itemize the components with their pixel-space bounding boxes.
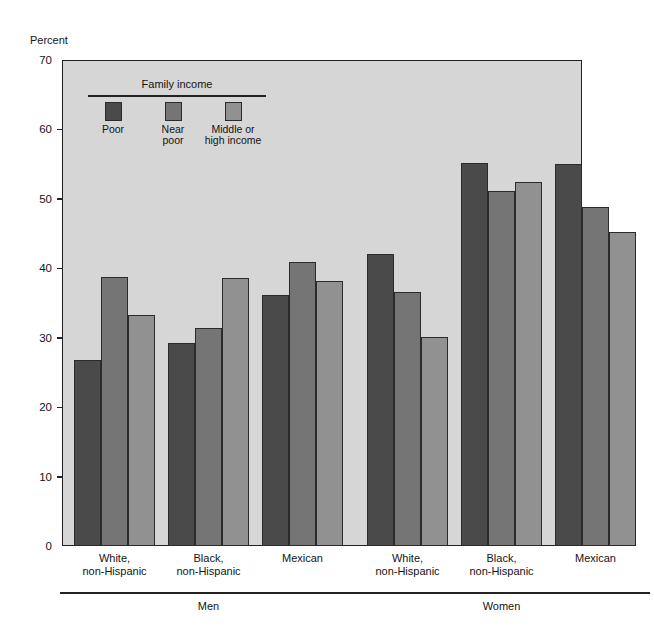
- legend-item[interactable]: Poor: [88, 102, 138, 135]
- bar: [101, 277, 128, 546]
- supergroup-rule: [60, 592, 357, 594]
- bar: [461, 163, 488, 546]
- legend-swatch: [225, 102, 242, 121]
- legend-item-label: Middle or high income: [200, 124, 266, 146]
- legend-item-label: Poor: [88, 124, 138, 135]
- bar: [316, 281, 343, 546]
- y-tick-label: 20: [39, 401, 52, 413]
- bar: [394, 292, 421, 546]
- bar: [421, 337, 448, 546]
- bar: [128, 315, 155, 546]
- legend-divider: [88, 95, 266, 97]
- y-tick-label: 70: [39, 54, 52, 66]
- supergroup-label: Men: [149, 600, 269, 612]
- bar: [488, 191, 515, 546]
- y-tick-label: 30: [39, 332, 52, 344]
- chart-legend: Family income PoorNear poorMiddle or hig…: [88, 78, 266, 140]
- supergroup-rule: [353, 592, 650, 594]
- bar: [222, 278, 249, 546]
- bar: [367, 254, 394, 546]
- legend-item[interactable]: Near poor: [150, 102, 196, 146]
- bar: [74, 360, 101, 546]
- bar: [262, 295, 289, 546]
- x-axis-group-label: Mexican: [243, 552, 363, 565]
- bar: [289, 262, 316, 546]
- bar: [195, 328, 222, 546]
- legend-swatch: [105, 102, 122, 121]
- legend-item-label: Near poor: [150, 124, 196, 146]
- legend-item[interactable]: Middle or high income: [200, 102, 266, 146]
- bar: [582, 207, 609, 546]
- legend-title: Family income: [88, 78, 266, 90]
- y-tick-label: 0: [46, 540, 52, 552]
- y-tick-label: 60: [39, 123, 52, 135]
- bar: [515, 182, 542, 547]
- x-axis-group-label: Mexican: [536, 552, 654, 565]
- y-tick-label: 40: [39, 262, 52, 274]
- bar: [555, 164, 582, 546]
- y-tick-label: 10: [39, 471, 52, 483]
- y-axis-ticks: 706050403020100: [0, 0, 62, 636]
- bar: [168, 343, 195, 546]
- bar: [609, 232, 636, 547]
- legend-swatch: [165, 102, 182, 121]
- supergroup-label: Women: [442, 600, 562, 612]
- y-tick-label: 50: [39, 193, 52, 205]
- x-axis-group-labels: White, non-HispanicBlack, non-HispanicMe…: [0, 552, 617, 592]
